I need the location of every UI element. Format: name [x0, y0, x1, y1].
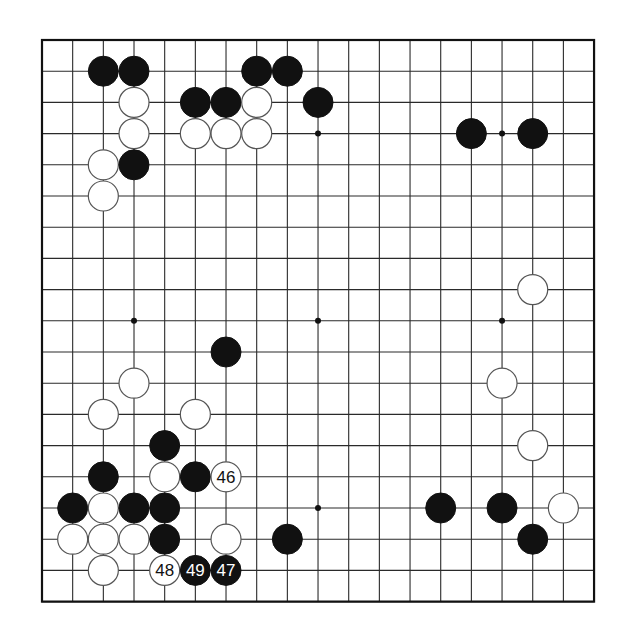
white-stone [119, 87, 149, 117]
move-number-label: 49 [186, 561, 205, 580]
black-stone-circle [119, 150, 149, 180]
white-stone-circle [211, 119, 241, 149]
white-stone-circle [518, 275, 548, 305]
black-stone [180, 87, 210, 117]
black-stone-circle [119, 56, 149, 86]
black-stone-circle [211, 337, 241, 367]
move-number-label: 46 [217, 468, 236, 487]
white-stone [88, 150, 118, 180]
star-point [131, 318, 137, 324]
black-stone [150, 493, 180, 523]
black-stone-circle [518, 524, 548, 554]
white-stone [88, 399, 118, 429]
white-stone-circle [180, 119, 210, 149]
black-stone [303, 87, 333, 117]
black-stone [487, 493, 517, 523]
black-stone [272, 56, 302, 86]
black-stone [88, 56, 118, 86]
white-stone-circle [88, 399, 118, 429]
white-stone [119, 119, 149, 149]
white-stone-circle [242, 119, 272, 149]
white-stone-circle [518, 431, 548, 461]
black-stone [518, 524, 548, 554]
black-stone-circle [150, 431, 180, 461]
black-stone [426, 493, 456, 523]
white-stone-circle [150, 462, 180, 492]
white-stone-circle [88, 524, 118, 554]
go-board[interactable]: 46484947 [0, 0, 628, 642]
black-stone-circle [272, 56, 302, 86]
black-stone-circle [426, 493, 456, 523]
black-stone [150, 524, 180, 554]
white-stone [88, 524, 118, 554]
white-stone [518, 275, 548, 305]
white-stone [88, 493, 118, 523]
black-stone-circle [88, 462, 118, 492]
white-stone-circle [88, 150, 118, 180]
black-stone-circle [150, 524, 180, 554]
black-stone [518, 119, 548, 149]
white-stone: 46 [211, 462, 241, 492]
black-stone [119, 56, 149, 86]
black-stone [211, 87, 241, 117]
move-number-label: 48 [155, 561, 174, 580]
white-stone-circle [211, 524, 241, 554]
black-stone-circle [487, 493, 517, 523]
black-stone-circle [180, 87, 210, 117]
black-stone-circle [58, 493, 88, 523]
white-stone [548, 493, 578, 523]
white-stone [211, 119, 241, 149]
star-point [315, 131, 321, 137]
black-stone: 47 [211, 555, 241, 585]
white-stone [180, 119, 210, 149]
star-point [499, 318, 505, 324]
black-stone [242, 56, 272, 86]
go-board-canvas[interactable]: 46484947 [0, 0, 628, 642]
black-stone-circle [303, 87, 333, 117]
white-stone [518, 431, 548, 461]
white-stone-circle [548, 493, 578, 523]
star-point [315, 318, 321, 324]
black-stone [211, 337, 241, 367]
white-stone-circle [119, 368, 149, 398]
black-stone [456, 119, 486, 149]
white-stone-circle [180, 399, 210, 429]
black-stone-circle [272, 524, 302, 554]
white-stone [150, 462, 180, 492]
white-stone [119, 368, 149, 398]
white-stone [242, 87, 272, 117]
white-stone [487, 368, 517, 398]
white-stone [211, 524, 241, 554]
white-stone [242, 119, 272, 149]
black-stone-circle [150, 493, 180, 523]
black-stone [119, 150, 149, 180]
white-stone-circle [88, 555, 118, 585]
black-stone-circle [518, 119, 548, 149]
black-stone-circle [211, 87, 241, 117]
black-stone-circle [88, 56, 118, 86]
black-stone-circle [180, 462, 210, 492]
move-number-label: 47 [217, 561, 236, 580]
white-stone-circle [58, 524, 88, 554]
white-stone [119, 524, 149, 554]
white-stone [88, 555, 118, 585]
black-stone-circle [242, 56, 272, 86]
white-stone-circle [242, 87, 272, 117]
white-stone-circle [88, 493, 118, 523]
white-stone-circle [119, 87, 149, 117]
black-stone [180, 462, 210, 492]
white-stone-circle [119, 524, 149, 554]
white-stone: 48 [150, 555, 180, 585]
white-stone [88, 181, 118, 211]
white-stone-circle [487, 368, 517, 398]
white-stone [58, 524, 88, 554]
black-stone-circle [119, 493, 149, 523]
black-stone-circle [456, 119, 486, 149]
white-stone-circle [88, 181, 118, 211]
black-stone: 49 [180, 555, 210, 585]
white-stone-circle [119, 119, 149, 149]
star-point [315, 505, 321, 511]
black-stone [119, 493, 149, 523]
black-stone [58, 493, 88, 523]
star-point [499, 131, 505, 137]
